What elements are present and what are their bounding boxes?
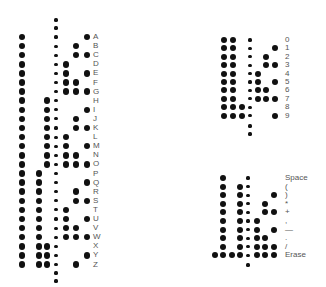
row-label: N — [93, 151, 99, 159]
data-hole — [63, 88, 70, 95]
data-hole — [254, 252, 260, 258]
row-label: A — [93, 33, 98, 41]
data-hole — [19, 52, 26, 59]
row-label: S — [93, 197, 98, 205]
sprocket-hole — [54, 208, 57, 211]
row-label: K — [93, 124, 98, 132]
data-hole — [73, 225, 80, 232]
data-hole — [237, 218, 243, 224]
data-hole — [19, 179, 26, 186]
data-hole — [237, 244, 243, 250]
sprocket-hole — [246, 263, 249, 266]
data-hole — [220, 201, 226, 207]
data-hole — [73, 188, 80, 195]
data-hole — [230, 37, 236, 43]
data-hole — [263, 96, 269, 102]
data-hole — [36, 261, 43, 268]
data-hole — [36, 252, 43, 259]
data-hole — [272, 79, 278, 85]
row-label: , — [285, 217, 287, 225]
row-label: T — [93, 206, 98, 214]
data-hole — [36, 170, 43, 177]
sprocket-hole — [54, 108, 57, 111]
sprocket-hole — [54, 35, 57, 38]
data-hole — [73, 52, 80, 59]
data-hole — [84, 198, 91, 205]
data-hole — [237, 201, 243, 207]
sprocket-hole — [248, 114, 251, 117]
data-hole — [239, 104, 245, 110]
data-hole — [36, 198, 43, 205]
sprocket-hole — [246, 185, 249, 188]
sprocket-hole — [246, 254, 249, 257]
sprocket-hole — [54, 45, 57, 48]
sprocket-hole — [54, 63, 57, 66]
data-hole — [221, 113, 227, 119]
row-label: D — [93, 60, 99, 68]
data-hole — [19, 79, 26, 86]
data-hole — [73, 198, 80, 205]
data-hole — [84, 70, 91, 77]
data-hole — [263, 62, 269, 68]
data-hole — [73, 261, 80, 268]
data-hole — [19, 188, 26, 195]
sprocket-hole — [248, 106, 251, 109]
row-label: ) — [285, 191, 288, 199]
row-label: G — [93, 88, 99, 96]
data-hole — [230, 45, 236, 51]
row-label: P — [93, 170, 98, 178]
data-hole — [84, 88, 91, 95]
data-hole — [271, 192, 277, 198]
sprocket-hole — [54, 154, 57, 157]
data-hole — [19, 216, 26, 223]
data-hole — [254, 244, 260, 250]
data-hole — [254, 227, 260, 233]
data-hole — [221, 62, 227, 68]
data-hole — [262, 235, 268, 241]
row-label: L — [93, 133, 97, 141]
sprocket-hole — [248, 55, 251, 58]
data-hole — [255, 87, 261, 93]
data-hole — [19, 143, 26, 150]
data-hole — [19, 170, 26, 177]
data-hole — [272, 62, 278, 68]
data-hole — [73, 88, 80, 95]
sprocket-hole — [54, 181, 57, 184]
data-hole — [221, 87, 227, 93]
sprocket-hole — [54, 81, 57, 84]
data-hole — [220, 244, 226, 250]
data-hole — [44, 161, 51, 168]
data-hole — [220, 235, 226, 241]
sprocket-hole — [246, 228, 249, 231]
data-hole — [221, 104, 227, 110]
data-hole — [84, 125, 91, 132]
data-hole — [263, 54, 269, 60]
data-hole — [44, 125, 51, 132]
data-hole — [84, 234, 91, 241]
row-label: H — [93, 97, 99, 105]
data-hole — [84, 34, 91, 41]
sprocket-hole — [54, 172, 57, 175]
sprocket-hole — [248, 80, 251, 83]
sprocket-hole — [248, 64, 251, 67]
data-hole — [44, 134, 51, 141]
sprocket-hole — [54, 72, 57, 75]
data-hole — [44, 252, 51, 259]
data-hole — [262, 252, 268, 258]
data-hole — [262, 209, 268, 215]
data-hole — [44, 107, 51, 114]
data-hole — [44, 143, 51, 150]
sprocket-hole — [54, 279, 57, 282]
sprocket-hole — [54, 26, 57, 29]
sprocket-hole — [248, 132, 251, 135]
row-label: U — [93, 215, 99, 223]
data-hole — [19, 198, 26, 205]
sprocket-hole — [54, 145, 57, 148]
sprocket-hole — [246, 202, 249, 205]
sprocket-hole — [54, 90, 57, 93]
sprocket-hole — [54, 217, 57, 220]
data-hole — [230, 62, 236, 68]
data-hole — [212, 252, 218, 258]
row-label: O — [93, 160, 99, 168]
data-hole — [229, 252, 235, 258]
